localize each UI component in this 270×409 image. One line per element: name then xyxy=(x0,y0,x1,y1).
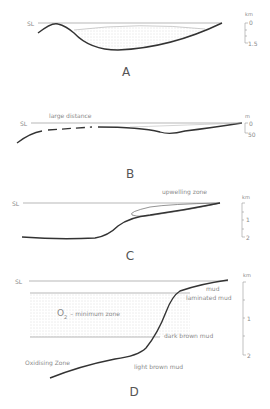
basin-profiles-diagram: SL A km 0 1.5 large distance SL B m 0 50… xyxy=(0,0,270,409)
panel-label: D xyxy=(129,385,138,399)
scale-unit: m xyxy=(245,113,250,119)
scale-tick: 50 xyxy=(248,131,256,138)
scale-unit: km xyxy=(242,194,250,200)
annotation-large-distance: large distance xyxy=(49,112,92,120)
sea-level-label: SL xyxy=(20,120,28,127)
seafloor-profile xyxy=(22,203,220,239)
panel-c: upwelling zone SL C km 1 2 xyxy=(12,188,250,263)
seafloor-dashed xyxy=(48,127,92,130)
scale-tick: 0 xyxy=(249,120,253,127)
panel-label: B xyxy=(126,167,134,181)
sediment-laminated-mud: laminated mud xyxy=(186,294,232,301)
sea-level-label: SL xyxy=(15,278,23,285)
scale-unit: km xyxy=(243,272,251,278)
scale-tick: 1 xyxy=(247,315,251,322)
sea-level-label: SL xyxy=(27,20,35,27)
scale-tick: 2 xyxy=(246,234,250,241)
scale-tick: 2 xyxy=(247,352,251,359)
seafloor-profile xyxy=(98,123,242,133)
scale-bar xyxy=(243,282,246,355)
panel-label: C xyxy=(126,249,134,263)
panel-b: large distance SL B m 0 50 xyxy=(17,112,256,181)
panel-label: A xyxy=(122,65,131,79)
annotation-upwelling-zone: upwelling zone xyxy=(162,188,207,196)
panel-a: SL A km 0 1.5 xyxy=(27,11,258,79)
panel-d: SL O2– minimum zone Oxidising Zone mud l… xyxy=(15,272,251,399)
sediment-dark-brown-mud: dark brown mud xyxy=(164,332,213,339)
seafloor-profile xyxy=(17,131,42,143)
sediment-light-brown-mud: light brown mud xyxy=(134,363,183,371)
scale-unit: km xyxy=(245,11,253,17)
scale-tick: 1 xyxy=(246,216,250,223)
scale-tick: 0 xyxy=(249,19,253,26)
sediment-mud: mud xyxy=(206,285,220,292)
scale-bar xyxy=(242,203,245,237)
oxidising-zone-label: Oxidising Zone xyxy=(25,359,70,367)
sea-level-label: SL xyxy=(12,200,20,207)
scale-tick: 1.5 xyxy=(248,40,258,47)
